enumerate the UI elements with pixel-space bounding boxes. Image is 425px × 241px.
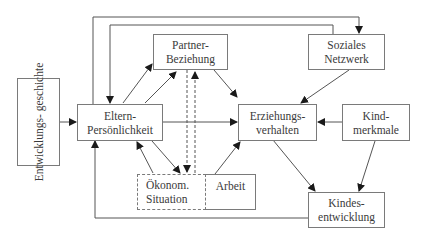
node-label: entwicklung — [318, 210, 375, 224]
node-label: Persönlichkeit — [87, 123, 153, 137]
node-partner-beziehung: Partner- Beziehung — [153, 34, 228, 70]
node-label: Situation — [146, 192, 188, 206]
edge-erziehung-kindesentw — [273, 140, 315, 191]
node-entwicklungsgeschichte: Entwicklungs- geschichte — [17, 78, 60, 166]
node-label: Beziehung — [166, 52, 215, 66]
edge-arbeit-erziehung — [215, 142, 240, 174]
edge-partner-eltern — [123, 64, 152, 103]
node-eltern-persoenlichkeit: Eltern- Persönlichkeit — [77, 104, 163, 141]
node-label: merkmale — [353, 123, 399, 137]
node-erziehungsverhalten: Erziehungs- verhalten — [238, 104, 317, 141]
node-label: Kind- — [363, 109, 390, 123]
node-label: geschichte — [33, 63, 45, 112]
node-label: Partner- — [172, 38, 209, 52]
node-label: Netzwerk — [324, 52, 369, 66]
node-label: Arbeit — [216, 179, 245, 193]
node-soziales-netzwerk: Soziales Netzwerk — [308, 34, 385, 70]
node-label: Ökonom. — [146, 178, 189, 192]
edge-eltern-partner — [145, 72, 176, 103]
node-label: Kindes- — [328, 196, 364, 210]
edge-partner-erziehung — [214, 70, 237, 97]
node-oekonom-situation: Ökonom. Situation — [137, 174, 206, 210]
node-label: Eltern- — [104, 109, 136, 123]
node-kindmerkmale: Kind- merkmale — [342, 104, 410, 141]
node-label: Erziehungs- — [250, 109, 306, 123]
node-label: Entwicklungs- — [33, 114, 45, 181]
node-kindesentwicklung: Kindes- entwicklung — [308, 192, 385, 228]
edge-sozial-erziehung — [301, 70, 349, 103]
node-arbeit: Arbeit — [205, 174, 256, 210]
edge-oekonom-eltern — [137, 142, 153, 173]
node-label: Soziales — [327, 38, 365, 52]
edge-kind-kindesentw — [359, 141, 375, 191]
node-label: verhalten — [256, 123, 299, 137]
edge-eltern-oekonom — [152, 141, 180, 173]
diagram: Entwicklungs- geschichte Eltern- Persönl… — [0, 0, 425, 241]
